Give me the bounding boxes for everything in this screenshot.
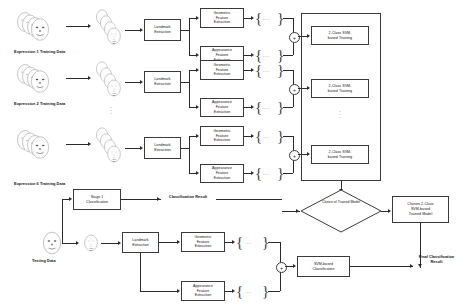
branch-line <box>189 70 196 71</box>
face-stack-landmark-3: Apex 2F <box>92 126 126 166</box>
concat-node-3: + <box>289 150 300 161</box>
connector-line <box>341 181 342 189</box>
arrow-line <box>244 55 251 56</box>
arrow-head <box>232 240 235 244</box>
connector-line <box>216 199 282 200</box>
arrow-head <box>69 197 72 201</box>
arrow-line <box>225 242 232 243</box>
arrow-head <box>232 289 235 293</box>
text-line: Extraction <box>195 244 211 249</box>
text-line: based Training <box>328 89 352 94</box>
landmark-extraction-box-1: Landmark Extraction <box>144 19 181 41</box>
arrow-line <box>244 136 251 137</box>
stage1-classification-result-label: Classification Result <box>163 194 213 199</box>
face-testing-data <box>38 228 66 258</box>
arrow-head <box>140 146 143 150</box>
svm-training-box-2: 2-Class SVM- based Training <box>311 79 369 98</box>
face-stack-training-1 <box>14 10 66 44</box>
arrow-head <box>140 80 143 84</box>
geometric-feature-extraction-box-2: Geometric Feature Extraction <box>200 60 244 80</box>
arrow-head <box>410 264 413 268</box>
arrow-head <box>196 171 199 175</box>
branch-line <box>189 107 196 108</box>
arrow-line <box>66 26 88 27</box>
ellipsis-dots: .... <box>263 134 270 139</box>
arrow-line <box>159 242 177 243</box>
text-line: Final <box>419 254 428 259</box>
connector-line <box>62 199 69 200</box>
text-line: Extraction <box>195 293 211 298</box>
arrow-line <box>66 243 76 244</box>
svm-classification-box: SVM-based Classification <box>297 256 350 277</box>
arrow-line <box>244 107 251 108</box>
merge-line <box>283 55 293 56</box>
merge-line <box>283 18 293 19</box>
arrow-head <box>88 142 91 146</box>
arrow-line <box>244 70 251 71</box>
expression-1-training-data-label: Expression 1 Training Data <box>14 49 65 54</box>
branch-line <box>181 148 189 149</box>
branch-line <box>181 82 189 83</box>
landmark-extraction-box-testing: Landmark Extraction <box>122 232 159 253</box>
arrow-line <box>125 30 140 31</box>
face-stack-landmark-2: Apex 2F <box>92 60 126 100</box>
branch-line <box>181 30 189 31</box>
arrow-line <box>225 291 232 292</box>
arrow-head <box>88 76 91 80</box>
text-line: Extraction <box>154 148 170 153</box>
branch-line <box>140 253 141 291</box>
landmark-extraction-box-2: Landmark Extraction <box>144 71 181 93</box>
text-line: Extraction <box>154 82 170 87</box>
arrow-line <box>101 243 118 244</box>
text-line: Classification <box>313 267 335 272</box>
branch-line <box>189 18 196 19</box>
text-line: Choice of <box>322 200 337 204</box>
choice-diamond-label: Choice of Trained Model <box>310 200 372 205</box>
merge-line <box>283 173 293 174</box>
text-line: based Training <box>328 36 352 41</box>
diagram-canvas: Apex 2F Landmark Extraction Geometric Fe… <box>0 0 461 307</box>
arrow-head <box>196 105 199 109</box>
arrow-head <box>196 134 199 138</box>
merge-line <box>268 242 280 243</box>
appearance-feature-extraction-box-2: Appearance Feature Extraction <box>200 98 244 117</box>
arrow-head <box>251 105 254 109</box>
branch-line <box>189 173 196 174</box>
arrow-head <box>251 16 254 20</box>
text-line: Extraction <box>214 72 230 77</box>
branch-line <box>189 136 190 173</box>
concat-node-2: + <box>289 84 300 95</box>
arrow-head <box>177 289 180 293</box>
text-line: based Training <box>328 155 352 160</box>
branch-line <box>140 291 177 292</box>
svm-training-box-3: 2-Class SVM- based Training <box>311 145 369 164</box>
arrow-head <box>157 197 160 201</box>
arrow-head <box>251 134 254 138</box>
arrow-head <box>196 16 199 20</box>
geometric-feature-extraction-box-3: Geometric Feature Extraction <box>200 126 244 146</box>
face-stack-training-2 <box>14 62 66 96</box>
ellipsis-dots: .... <box>245 240 252 245</box>
arrow-head <box>140 28 143 32</box>
concat-node-testing: + <box>276 262 287 273</box>
text-line: Extraction <box>214 176 230 181</box>
face-stack-training-3 <box>14 128 66 162</box>
arrow-head <box>76 241 79 245</box>
branch-line <box>189 136 196 137</box>
arrow-head <box>196 53 199 57</box>
text-line: Classification <box>429 254 454 259</box>
landmark-extraction-box-3: Landmark Extraction <box>144 137 181 159</box>
merge-line <box>283 136 293 137</box>
arrow-head <box>251 53 254 57</box>
arrow-line <box>66 78 88 79</box>
arrow-head <box>296 209 299 213</box>
arrow-line <box>125 148 140 149</box>
concat-node-1: + <box>289 32 300 43</box>
testing-data-label: Testing Data <box>32 258 56 263</box>
merge-line <box>283 70 293 71</box>
arrow-line <box>125 82 140 83</box>
merge-line <box>268 291 280 292</box>
text-line: Classification <box>86 200 108 205</box>
text-line: Classification <box>169 194 194 199</box>
arrow-head <box>388 209 391 213</box>
